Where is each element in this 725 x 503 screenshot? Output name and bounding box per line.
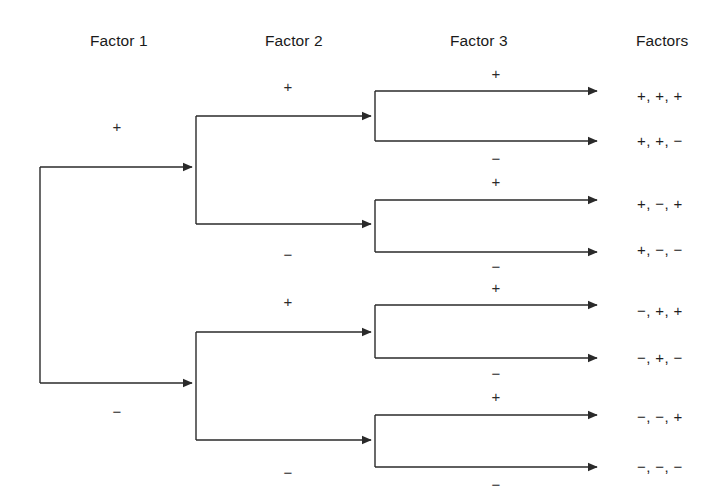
tree-diagram-canvas xyxy=(0,0,725,503)
sign-factor1-plus: + xyxy=(113,119,122,134)
sign-factor2-a-plus: + xyxy=(284,79,293,94)
outcome-label: −, +, − xyxy=(637,350,683,365)
sign-factor3-2-minus: − xyxy=(492,259,501,274)
sign-factor3-2-plus: + xyxy=(492,174,501,189)
column-header-factor-2: Factor 2 xyxy=(265,32,323,50)
outcome-label: +, +, + xyxy=(637,88,683,103)
sign-factor3-4-minus: − xyxy=(492,477,501,492)
outcome-label: −, −, − xyxy=(637,459,683,474)
outcome-label: −, −, + xyxy=(637,409,683,424)
sign-factor1-minus: − xyxy=(113,404,122,419)
sign-factor2-a-minus: − xyxy=(284,247,293,262)
sign-factor3-3-minus: − xyxy=(492,366,501,381)
column-header-factor-3: Factor 3 xyxy=(450,32,508,50)
tree-edges xyxy=(40,91,597,467)
outcome-label: −, +, + xyxy=(637,303,683,318)
sign-factor3-3-plus: + xyxy=(492,280,501,295)
sign-factor2-b-minus: − xyxy=(284,465,293,480)
tree-diagram-page: Factor 1 Factor 2 Factor 3 Factors + − +… xyxy=(0,0,725,503)
column-header-factor-1: Factor 1 xyxy=(90,32,148,50)
outcome-label: +, −, + xyxy=(637,196,683,211)
sign-factor3-1-minus: − xyxy=(492,151,501,166)
column-header-factors: Factors xyxy=(636,32,688,50)
outcome-label: +, −, − xyxy=(637,242,683,257)
sign-factor3-1-plus: + xyxy=(492,66,501,81)
outcome-label: +, +, − xyxy=(637,133,683,148)
sign-factor2-b-plus: + xyxy=(284,294,293,309)
sign-factor3-4-plus: + xyxy=(492,389,501,404)
